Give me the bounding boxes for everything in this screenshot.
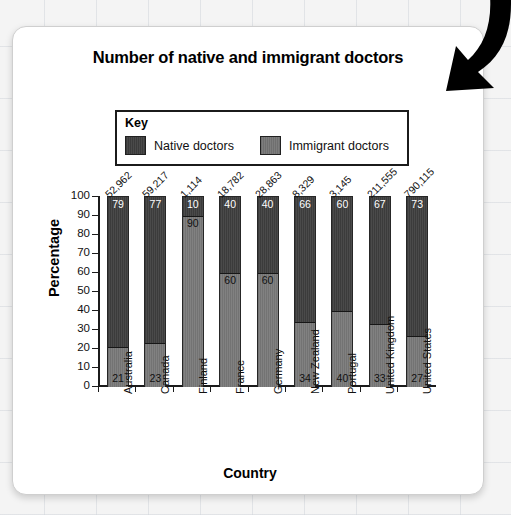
y-tick-mark xyxy=(92,329,98,330)
x-axis-label: Finland xyxy=(197,358,209,394)
y-tick-mark xyxy=(92,367,98,368)
segment-divider xyxy=(183,216,203,217)
value-label-immigrant: 90 xyxy=(183,218,203,229)
segment-native: 40 xyxy=(258,197,278,273)
y-tick-label: 100 xyxy=(64,189,90,201)
y-tick-mark xyxy=(92,291,98,292)
segment-native: 60 xyxy=(332,197,352,311)
x-tick-mark xyxy=(397,387,398,392)
y-tick-mark xyxy=(92,253,98,254)
y-tick-label: 70 xyxy=(64,246,90,258)
value-label-native: 40 xyxy=(258,199,278,210)
segment-native: 66 xyxy=(295,197,315,322)
x-tick-mark xyxy=(360,387,361,392)
y-tick-mark xyxy=(92,310,98,311)
y-tick-mark xyxy=(92,196,98,197)
x-tick-mark xyxy=(135,387,136,392)
y-tick-label: 0 xyxy=(64,379,90,391)
y-tick-label: 20 xyxy=(64,341,90,353)
x-axis-label: Canada xyxy=(159,355,171,394)
x-axis-label: Germany xyxy=(272,349,284,394)
value-label-native: 79 xyxy=(108,199,128,210)
x-tick-mark xyxy=(210,387,211,392)
segment-native: 73 xyxy=(407,197,427,336)
x-tick-mark xyxy=(248,387,249,392)
segment-divider xyxy=(145,343,165,344)
y-tick-label: 40 xyxy=(64,303,90,315)
segment-native: 40 xyxy=(220,197,240,273)
segment-divider xyxy=(108,347,128,348)
value-label-native: 60 xyxy=(332,199,352,210)
x-tick-mark xyxy=(322,387,323,392)
y-tick-label: 90 xyxy=(64,208,90,220)
x-axis-label: New Zealand xyxy=(309,329,321,394)
y-tick-label: 10 xyxy=(64,360,90,372)
value-label-native: 66 xyxy=(295,199,315,210)
x-axis-title: Country xyxy=(60,465,440,481)
y-tick-mark xyxy=(92,272,98,273)
value-label-native: 10 xyxy=(183,199,203,210)
bar-total-label: 790,115 xyxy=(402,165,437,200)
y-axis-line xyxy=(98,196,100,386)
y-tick-label: 30 xyxy=(64,322,90,334)
segment-native: 77 xyxy=(145,197,165,343)
x-axis-label: United States xyxy=(421,328,433,394)
value-label-native: 67 xyxy=(370,199,390,210)
y-tick-mark xyxy=(92,234,98,235)
value-label-native: 77 xyxy=(145,199,165,210)
x-tick-mark xyxy=(285,387,286,392)
segment-divider xyxy=(220,273,240,274)
y-tick-label: 80 xyxy=(64,227,90,239)
x-axis-label: France xyxy=(234,360,246,394)
x-axis-label: Portugal xyxy=(346,353,358,394)
x-tick-mark xyxy=(98,387,99,392)
segment-native: 67 xyxy=(370,197,390,324)
y-tick-mark xyxy=(92,215,98,216)
segment-divider xyxy=(258,273,278,274)
value-label-immigrant: 60 xyxy=(220,275,240,286)
y-tick-mark xyxy=(92,348,98,349)
x-axis-label: United Kingdom xyxy=(384,316,396,394)
bar-total-label: 211,555 xyxy=(364,165,399,200)
bar-france[interactable]: 4060 xyxy=(219,196,241,386)
segment-divider xyxy=(295,322,315,323)
segment-native: 79 xyxy=(108,197,128,347)
y-tick-label: 60 xyxy=(64,265,90,277)
value-label-native: 73 xyxy=(407,199,427,210)
value-label-native: 40 xyxy=(220,199,240,210)
segment-divider xyxy=(332,311,352,312)
y-tick-label: 50 xyxy=(64,284,90,296)
value-label-immigrant: 60 xyxy=(258,275,278,286)
x-axis-label: Australia xyxy=(122,351,134,394)
pointer-arrow-icon xyxy=(416,0,511,96)
x-tick-mark xyxy=(173,387,174,392)
y-axis-title: Percentage xyxy=(46,198,62,318)
